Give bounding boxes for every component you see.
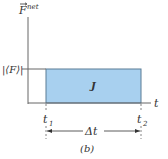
svg-text:F: F <box>18 4 27 17</box>
impulse-diagram: F net |⟨F⟩| t J t 1 t 2 Δt (b) <box>0 0 168 159</box>
t1-label: t <box>43 113 48 126</box>
svg-text:net: net <box>27 3 39 11</box>
t2-label: t <box>137 113 142 126</box>
y-axis-label: F net <box>18 3 39 17</box>
t2-subscript: 2 <box>142 120 148 128</box>
avg-force-label: |⟨F⟩| <box>2 64 23 76</box>
panel-label: (b) <box>80 143 94 154</box>
x-axis-label: t <box>154 97 159 110</box>
t1-subscript: 1 <box>49 120 53 128</box>
delta-t-label: Δt <box>84 125 98 138</box>
